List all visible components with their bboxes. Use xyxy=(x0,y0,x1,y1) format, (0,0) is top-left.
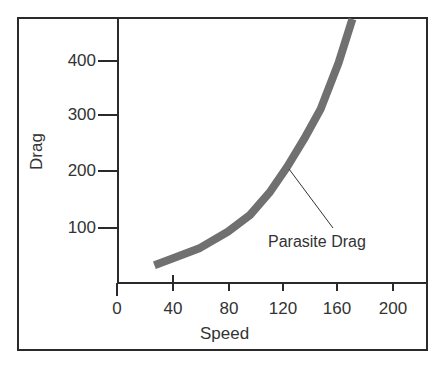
y-tick-label-300: 300 xyxy=(36,106,96,123)
x-ticks xyxy=(117,275,393,296)
x-tick-label-0: 0 xyxy=(92,300,142,317)
annotation-leader-line xyxy=(289,169,333,228)
y-tick-label-400: 400 xyxy=(36,52,96,69)
parasite-drag-curve xyxy=(154,19,352,265)
x-tick-label-120: 120 xyxy=(258,300,308,317)
x-tick-label-40: 40 xyxy=(148,300,198,317)
x-axis-title: Speed xyxy=(200,325,249,342)
x-tick-label-80: 80 xyxy=(204,300,254,317)
y-axis-title: Drag xyxy=(28,133,45,170)
y-ticks xyxy=(98,61,118,228)
x-tick-label-200: 200 xyxy=(368,300,418,317)
x-tick-label-160: 160 xyxy=(312,300,362,317)
y-tick-label-100: 100 xyxy=(36,219,96,236)
parasite-drag-label: Parasite Drag xyxy=(268,234,366,250)
